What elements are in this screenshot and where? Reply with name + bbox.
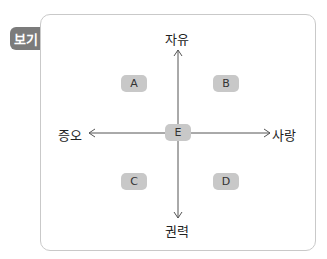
axis-label-left: 증오 <box>58 125 82 144</box>
region-b: B <box>213 75 239 92</box>
region-e: E <box>165 124 191 141</box>
region-a: A <box>121 75 147 92</box>
axis-label-top: 자유 <box>165 29 189 48</box>
region-d: D <box>213 173 239 190</box>
region-c: C <box>121 173 147 190</box>
axis-label-bottom: 권력 <box>165 221 189 240</box>
axis-label-right: 사랑 <box>272 125 296 144</box>
